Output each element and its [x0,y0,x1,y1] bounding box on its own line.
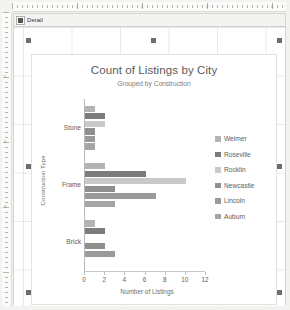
ruler-tick [5,242,8,243]
ruler-number: 2 [4,139,6,144]
section-selector-handle[interactable] [16,16,25,25]
ruler-tick [147,5,148,8]
detail-section-label: Detail [27,17,43,23]
bar-weimer-frame [85,163,105,169]
legend-item-lincoln[interactable]: Lincoln [215,193,275,209]
ruler-tick [5,102,8,103]
ruler-tick [87,5,88,8]
ruler-tick [5,217,8,218]
ruler-tick [5,67,8,68]
ruler-tick [162,5,163,8]
ruler-tick [5,72,8,73]
ruler-tick [5,287,8,288]
legend-label: Weimer [224,135,247,142]
ruler-tick [3,12,9,13]
ruler-tick [57,5,58,8]
report-canvas[interactable]: Detail Count of Listings by City Grouped… [13,13,286,305]
ruler-tick [282,5,283,8]
ruler-tick [232,5,233,8]
selection-handle-top-center[interactable] [151,38,156,43]
x-axis-tick-label: 2 [102,276,106,283]
ruler-tick [5,52,8,53]
legend-label: Rocklin [224,166,246,173]
ruler-tick [5,112,8,113]
bar-rocklin-stone [85,121,105,127]
chart-control[interactable]: Count of Listings by City Grouped by Con… [31,54,277,305]
x-axis-tick-label: 8 [163,276,167,283]
ruler-tick [132,5,133,8]
ruler-tick [5,282,8,283]
ruler-tick [5,232,8,233]
ruler-tick [197,5,198,8]
bar-rocklin-frame [85,178,186,184]
bar-roseville-brick [85,228,105,234]
x-axis-tick [165,272,166,275]
legend-swatch-icon [215,198,221,204]
ruler-tick [5,237,8,238]
legend-label: Newcastle [224,182,254,189]
x-axis-tick-label: 6 [143,276,147,283]
x-axis-tick [84,272,85,275]
ruler-tick [5,132,8,133]
ruler-tick [167,5,168,8]
ruler-tick [37,5,38,8]
ruler-tick [5,177,8,178]
ruler-tick [5,47,8,48]
ruler-tick [107,5,108,8]
ruler-tick [5,297,8,298]
ruler-tick [257,5,258,8]
ruler-tick [182,5,183,8]
ruler-tick [92,5,93,8]
detail-section-area[interactable]: Count of Listings by City Grouped by Con… [14,27,285,306]
ruler-tick [5,257,8,258]
bar-auburn-frame [85,201,115,207]
ruler-number: 1 [76,4,78,9]
ruler-tick [5,157,8,158]
x-axis-tick [145,272,146,275]
ruler-tick [5,202,8,203]
chart-legend[interactable]: WeimerRosevilleRocklinNewcastleLincolnAu… [215,131,275,224]
legend-item-newcastle[interactable]: Newcastle [215,178,275,194]
detail-section-band[interactable]: Detail [14,14,285,27]
y-axis-category-labels: StoneFrameBrick [50,99,83,271]
x-axis-tick [104,272,105,275]
y-axis-title: Construction Type [39,141,46,221]
legend-item-weimer[interactable]: Weimer [215,131,275,147]
selection-handle-top-left[interactable] [26,38,31,43]
legend-swatch-icon [215,167,221,173]
ruler-tick [67,5,68,8]
vertical-ruler[interactable]: 123 [2,12,12,306]
ruler-tick [5,107,8,108]
ruler-tick [252,5,253,8]
ruler-tick [17,5,18,8]
legend-swatch-icon [215,183,221,189]
legend-item-auburn[interactable]: Auburn [215,209,275,225]
ruler-tick [47,5,48,8]
x-axis: 024681012 [84,271,205,285]
bar-weimer-brick [85,220,95,226]
ruler-tick [5,97,8,98]
bar-weimer-stone [85,106,95,112]
x-axis-tick-label: 12 [201,276,208,283]
legend-item-roseville[interactable]: Roseville [215,147,275,163]
bar-auburn-stone [85,143,95,149]
ruler-tick [5,227,8,228]
ruler-tick [152,5,153,8]
ruler-tick [5,162,8,163]
ruler-tick [5,192,8,193]
ruler-tick [5,267,8,268]
selection-handle-top-right[interactable] [277,38,282,43]
horizontal-ruler[interactable]: 1234 [12,2,286,12]
ruler-tick [82,5,83,8]
ruler-tick [117,5,118,8]
ruler-tick [52,5,53,8]
chart-subtitle: Grouped by Construction [32,80,276,87]
ruler-tick [5,62,8,63]
bar-lincoln-stone [85,136,95,142]
ruler-tick [5,87,8,88]
legend-item-rocklin[interactable]: Rocklin [215,162,275,178]
ruler-tick [192,5,193,8]
plot-area [84,99,205,271]
ruler-tick [5,42,8,43]
ruler-tick [242,5,243,8]
